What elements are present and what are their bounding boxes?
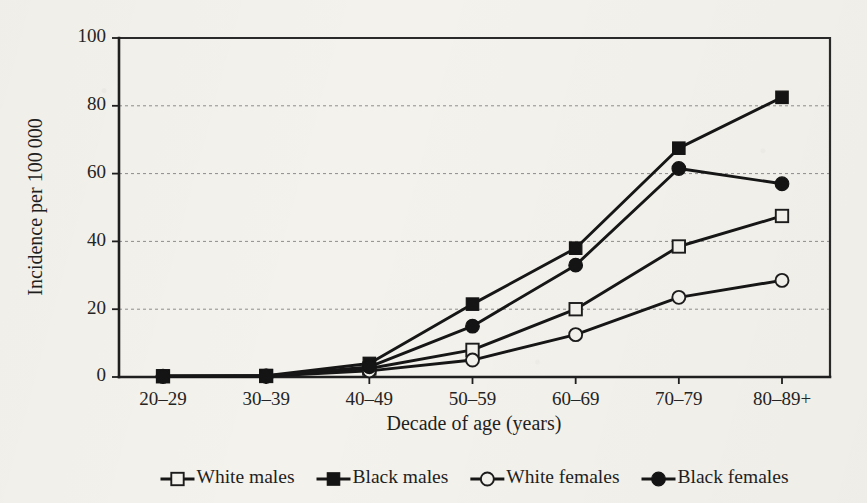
- legend-label: Black females: [678, 466, 789, 487]
- x-tick-label: 40–49: [346, 388, 394, 409]
- legend-item-white-males[interactable]: White males: [160, 466, 294, 487]
- marker-filled-circle: [363, 360, 377, 374]
- y-axis-ticks: 020406080100: [78, 25, 120, 385]
- chart-figure: 020406080100 20–2930–3940–4950–5960–6970…: [0, 0, 867, 503]
- marker-filled-circle: [466, 319, 480, 333]
- marker-open-square: [569, 303, 581, 315]
- marker-filled-square: [569, 242, 581, 254]
- marker-filled-square: [327, 473, 339, 485]
- marker-filled-circle: [259, 369, 273, 383]
- x-tick-label: 80–89+: [753, 388, 811, 409]
- series-markers-black-males: [157, 91, 788, 382]
- x-tick-label: 60–69: [552, 388, 600, 409]
- y-tick-label: 20: [87, 297, 106, 318]
- x-tick-label: 20–29: [139, 388, 187, 409]
- legend-label: Black males: [353, 466, 449, 487]
- marker-open-circle: [466, 354, 479, 367]
- chart-legend: White malesBlack malesWhite femalesBlack…: [160, 466, 788, 487]
- y-tick-label: 40: [87, 229, 106, 250]
- marker-open-square: [776, 210, 788, 222]
- y-tick-label: 80: [87, 93, 106, 114]
- marker-filled-square: [466, 298, 478, 310]
- marker-filled-circle: [652, 472, 666, 486]
- legend-label: White males: [196, 466, 294, 487]
- marker-filled-circle: [672, 162, 686, 176]
- gridlines: [119, 106, 830, 309]
- y-tick-label: 60: [87, 161, 106, 182]
- y-axis-title: Incidence per 100 000: [24, 118, 47, 295]
- marker-open-circle: [776, 274, 789, 287]
- x-axis-title: Decade of age (years): [387, 412, 562, 435]
- series-lines: [163, 97, 782, 376]
- x-axis-ticks: 20–2930–3940–4950–5960–6970–7980–89+: [139, 377, 811, 409]
- marker-filled-square: [673, 142, 685, 154]
- marker-filled-circle: [569, 258, 583, 272]
- marker-filled-circle: [775, 177, 789, 191]
- series-line-black-males: [163, 97, 782, 376]
- marker-open-circle: [672, 291, 685, 304]
- legend-item-white-females[interactable]: White females: [470, 466, 619, 487]
- x-tick-label: 70–79: [655, 388, 703, 409]
- y-tick-label: 100: [78, 25, 107, 46]
- marker-open-circle: [569, 328, 582, 341]
- marker-filled-circle: [156, 370, 170, 384]
- x-tick-label: 30–39: [242, 388, 290, 409]
- marker-open-square: [673, 240, 685, 252]
- x-tick-label: 50–59: [449, 388, 497, 409]
- incidence-line-chart: 020406080100 20–2930–3940–4950–5960–6970…: [0, 0, 867, 503]
- marker-open-circle: [481, 473, 494, 486]
- legend-label: White females: [506, 466, 619, 487]
- series-markers: [156, 91, 789, 383]
- marker-open-square: [171, 473, 183, 485]
- marker-filled-square: [776, 91, 788, 103]
- legend-item-black-males[interactable]: Black males: [317, 466, 449, 487]
- legend-item-black-females[interactable]: Black females: [642, 466, 789, 487]
- y-tick-label: 0: [97, 364, 107, 385]
